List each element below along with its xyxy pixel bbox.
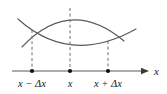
dashed-lines-group bbox=[32, 8, 108, 70]
axis-point-left bbox=[30, 69, 34, 73]
curves-group bbox=[18, 19, 136, 47]
tick-label-right: x + Δx bbox=[93, 78, 122, 89]
tick-label-left: x − Δx bbox=[17, 78, 46, 89]
axis-point-right bbox=[106, 69, 110, 73]
labels-group: x − Δx x x + Δx x bbox=[17, 65, 159, 89]
axis-point-center bbox=[68, 69, 72, 73]
concave-up-curve bbox=[18, 19, 136, 45]
figure-container: x − Δx x x + Δx x bbox=[0, 0, 167, 94]
diagram-canvas: x − Δx x x + Δx x bbox=[0, 0, 167, 94]
right-arrow-icon bbox=[141, 68, 149, 74]
tick-label-center: x bbox=[67, 78, 73, 89]
x-axis-label: x bbox=[153, 65, 159, 77]
